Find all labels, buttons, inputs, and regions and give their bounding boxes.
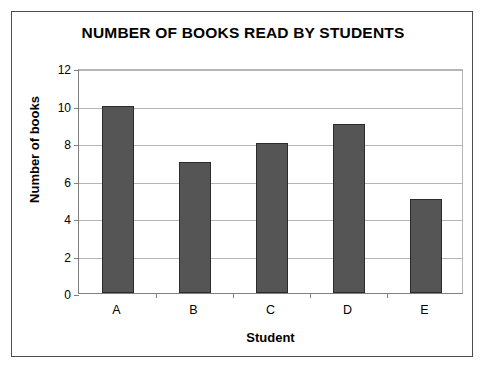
bar-e xyxy=(410,199,442,293)
x-axis-category-label-e: E xyxy=(420,303,428,317)
gridline xyxy=(79,70,462,71)
y-axis-tick xyxy=(74,145,79,146)
x-axis-category-label-b: B xyxy=(189,303,197,317)
y-axis-tick xyxy=(74,183,79,184)
bar-b xyxy=(179,162,211,293)
y-axis-tick-label: 2 xyxy=(64,251,71,265)
x-axis-tick xyxy=(156,293,157,298)
y-axis-tick-label: 0 xyxy=(64,288,71,302)
y-axis-tick xyxy=(74,70,79,71)
chart-frame: NUMBER OF BOOKS READ BY STUDENTS Number … xyxy=(11,11,473,357)
y-axis-tick-label: 10 xyxy=(58,101,71,115)
gridline xyxy=(79,108,462,109)
x-axis-tick xyxy=(233,293,234,298)
y-axis-tick-label: 6 xyxy=(64,176,71,190)
x-axis-category-label-c: C xyxy=(266,303,275,317)
y-axis-tick-label: 4 xyxy=(64,213,71,227)
y-axis-title: Number of books xyxy=(27,80,42,220)
y-axis-tick xyxy=(74,258,79,259)
y-axis-tick xyxy=(74,220,79,221)
bar-c xyxy=(256,143,288,293)
y-axis-tick-label: 12 xyxy=(58,63,71,77)
chart-title: NUMBER OF BOOKS READ BY STUDENTS xyxy=(12,24,474,42)
plot-area: 024681012 xyxy=(78,69,463,294)
x-axis-title: Student xyxy=(78,330,463,345)
bar-d xyxy=(333,124,365,293)
x-axis-category-label-a: A xyxy=(112,303,120,317)
x-axis-tick xyxy=(387,293,388,298)
y-axis-tick-label: 8 xyxy=(64,138,71,152)
x-axis-category-label-d: D xyxy=(343,303,352,317)
x-axis-tick xyxy=(310,293,311,298)
bar-a xyxy=(102,106,134,294)
y-axis-tick xyxy=(74,295,79,296)
y-axis-tick xyxy=(74,108,79,109)
